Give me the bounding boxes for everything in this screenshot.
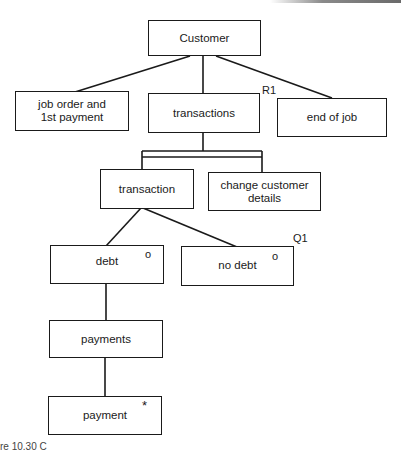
iteration-marker-icon: * bbox=[142, 399, 147, 412]
node-label: no debt bbox=[218, 259, 256, 272]
node-label: job order and 1st payment bbox=[38, 98, 106, 124]
node-end-of-job: end of job bbox=[277, 98, 387, 137]
node-label: payments bbox=[81, 333, 131, 346]
node-label: payment bbox=[83, 409, 127, 422]
node-payments: payments bbox=[49, 320, 163, 358]
connector-lines bbox=[0, 0, 401, 450]
figure-caption: re 10.30 C bbox=[0, 441, 47, 450]
node-transactions: transactions bbox=[148, 93, 260, 133]
node-label: Customer bbox=[180, 32, 230, 45]
node-label: debt bbox=[96, 255, 118, 268]
node-label: change customer details bbox=[220, 179, 308, 205]
node-job-order: job order and 1st payment bbox=[15, 91, 129, 131]
selection-marker-icon: o bbox=[272, 250, 278, 263]
node-no-debt: no debt o bbox=[181, 246, 294, 286]
node-change-customer-details: change customer details bbox=[208, 172, 321, 211]
node-debt: debt o bbox=[50, 245, 164, 284]
tag-r1: R1 bbox=[262, 84, 276, 96]
node-transaction: transaction bbox=[100, 169, 194, 209]
node-label: transactions bbox=[173, 107, 235, 120]
node-payment: payment * bbox=[48, 396, 162, 435]
tag-q1: Q1 bbox=[293, 232, 308, 244]
node-customer: Customer bbox=[148, 20, 261, 56]
node-label: transaction bbox=[119, 183, 175, 196]
node-label: end of job bbox=[307, 111, 358, 124]
selection-marker-icon: o bbox=[145, 248, 151, 261]
